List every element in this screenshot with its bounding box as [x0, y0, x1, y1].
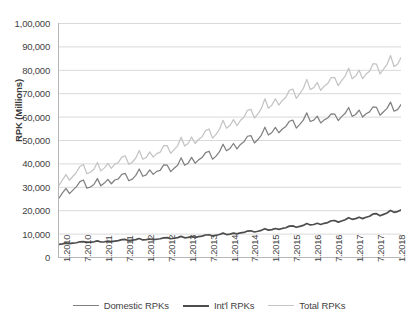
- y-axis-tick-label: 1,00,000: [15, 18, 50, 29]
- y-axis-tick-label: 20,000: [22, 205, 50, 216]
- y-axis-tick-label: 70,000: [22, 88, 50, 99]
- legend-label: Int'l RPKs: [214, 300, 254, 311]
- series-line: [59, 210, 401, 244]
- legend-label: Total RPKs: [299, 300, 345, 311]
- y-axis-tick-label: 50,000: [22, 135, 50, 146]
- rpk-line-chart: RPK (Millions) 1,00,00090,00080,00070,00…: [0, 0, 418, 324]
- legend-item[interactable]: Total RPKs: [268, 300, 345, 311]
- chart-legend: Domestic RPKsInt'l RPKsTotal RPKs: [0, 300, 418, 311]
- legend-label: Domestic RPKs: [104, 300, 169, 311]
- plot-area: [58, 23, 401, 258]
- y-axis-tick-label: 60,000: [22, 111, 50, 122]
- y-axis-tick-label: 10,000: [22, 228, 50, 239]
- legend-swatch-icon: [183, 305, 209, 307]
- y-axis-tick-label: 80,000: [22, 64, 50, 75]
- legend-swatch-icon: [73, 305, 99, 306]
- legend-item[interactable]: Int'l RPKs: [183, 300, 254, 311]
- series-canvas: [59, 23, 401, 257]
- legend-item[interactable]: Domestic RPKs: [73, 300, 169, 311]
- series-line: [59, 102, 401, 198]
- y-axis-tick-label: 90,000: [22, 41, 50, 52]
- y-axis-tick-label: 40,000: [22, 158, 50, 169]
- y-axis-tick-label: 30,000: [22, 181, 50, 192]
- y-axis-tick-label: 0: [45, 252, 50, 263]
- legend-swatch-icon: [268, 305, 294, 306]
- series-line: [59, 56, 401, 186]
- y-axis-tick-labels: 1,00,00090,00080,00070,00060,00050,00040…: [0, 0, 54, 324]
